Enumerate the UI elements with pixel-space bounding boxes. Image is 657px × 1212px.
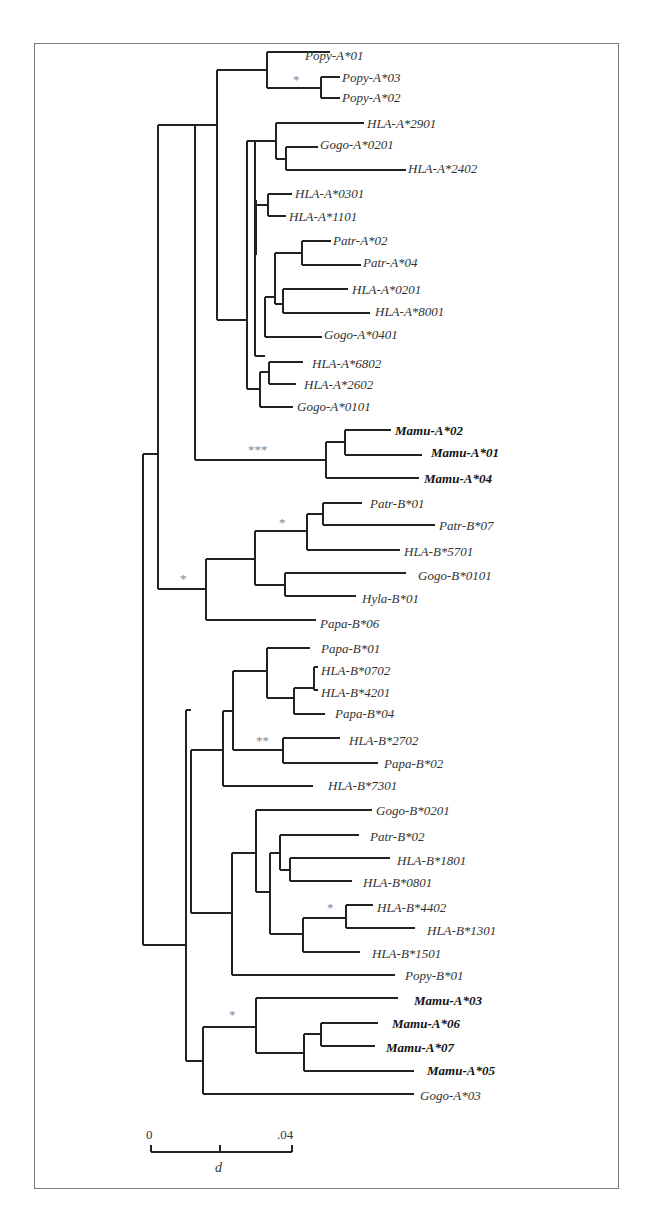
taxon-label: Hyla-B*01 (361, 591, 419, 606)
taxon-label: HLA-B*2702 (348, 733, 419, 748)
bootstrap-support-mark: * (279, 515, 286, 530)
taxon-label: HLA-B*5701 (403, 544, 473, 559)
taxon-label: HLA-A*1101 (288, 209, 357, 224)
taxon-label: Patr-A*04 (362, 255, 418, 270)
taxon-label: Papa-B*02 (383, 756, 444, 771)
phylogenetic-tree: Popy-A*01Popy-A*03Popy-A*02HLA-A*2901Gog… (0, 0, 657, 1212)
taxon-label: HLA-B*4402 (376, 900, 447, 915)
taxon-label: HLA-B*1301 (426, 923, 496, 938)
taxon-label: HLA-A*8001 (374, 304, 444, 319)
taxon-label: Patr-B*07 (438, 518, 494, 533)
taxon-label: Gogo-A*03 (420, 1088, 481, 1103)
taxon-label: Patr-B*02 (369, 829, 425, 844)
scale-end-label: .04 (277, 1127, 294, 1142)
bootstrap-support-mark: * (229, 1007, 236, 1022)
taxon-label: Mamu-A*04 (423, 471, 492, 486)
taxon-label: HLA-B*0702 (320, 663, 391, 678)
taxon-label: Papa-B*01 (320, 641, 380, 656)
taxon-label: Gogo-A*0201 (320, 137, 394, 152)
bootstrap-support-mark: * (180, 571, 187, 586)
taxon-label: Gogo-A*0401 (324, 327, 398, 342)
taxon-label: HLA-B*1501 (371, 946, 441, 961)
taxon-label: Patr-A*02 (332, 233, 388, 248)
taxon-label: Gogo-B*0101 (418, 568, 492, 583)
taxon-label: HLA-A*6802 (311, 356, 382, 371)
taxon-label: HLA-B*4201 (320, 685, 390, 700)
taxon-label: HLA-A*2901 (366, 116, 436, 131)
scale-bar: 0 .04 d (146, 1127, 294, 1175)
taxon-label: Mamu-A*03 (413, 993, 482, 1008)
taxon-label: Mamu-A*05 (426, 1063, 495, 1078)
taxon-label: Mamu-A*06 (391, 1016, 460, 1031)
taxon-label: Papa-B*04 (334, 706, 395, 721)
taxon-label: HLA-A*0201 (351, 282, 421, 297)
bootstrap-support-mark: * (327, 900, 334, 915)
taxon-label: Patr-B*01 (369, 496, 425, 511)
taxon-label: Popy-A*02 (341, 90, 401, 105)
bootstrap-support-mark: * (293, 72, 300, 87)
taxon-label: HLA-B*7301 (327, 778, 397, 793)
taxon-label: Popy-A*03 (341, 70, 401, 85)
taxon-label: HLA-A*2602 (303, 377, 374, 392)
bootstrap-support-mark: *** (248, 442, 268, 457)
scale-unit-label: d (215, 1160, 223, 1175)
taxon-label: Gogo-B*0201 (376, 803, 450, 818)
scale-start-label: 0 (146, 1127, 153, 1142)
taxon-label: HLA-B*0801 (362, 875, 432, 890)
taxon-label: Mamu-A*02 (394, 423, 463, 438)
taxon-label: Gogo-A*0101 (297, 399, 371, 414)
taxon-label: Mamu-A*07 (385, 1040, 454, 1055)
taxon-label: HLA-A*0301 (294, 186, 364, 201)
bootstrap-support-mark: ** (256, 733, 269, 748)
taxon-label: Mamu-A*01 (430, 445, 499, 460)
taxon-label: Popy-B*01 (404, 968, 463, 983)
taxon-labels: Popy-A*01Popy-A*03Popy-A*02HLA-A*2901Gog… (288, 48, 499, 1103)
taxon-label: Popy-A*01 (304, 48, 363, 63)
taxon-label: HLA-B*1801 (396, 853, 466, 868)
taxon-label: HLA-A*2402 (407, 161, 478, 176)
taxon-label: Papa-B*06 (319, 616, 380, 631)
